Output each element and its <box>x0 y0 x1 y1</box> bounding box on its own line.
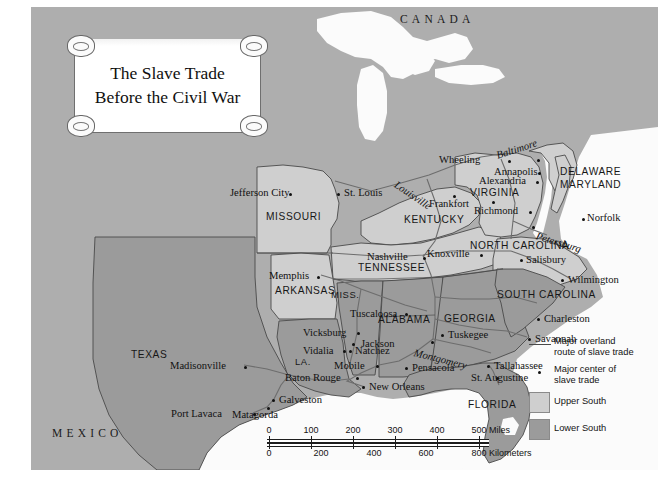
city-label-baton-rouge: Baton Rouge <box>285 373 341 384</box>
state-label-missouri: MISSOURI <box>266 212 321 222</box>
state-label-georgia: GEORGIA <box>444 314 496 324</box>
legend-label-lower-south: Lower South <box>554 423 606 434</box>
legend-label-upper-south: Upper South <box>554 396 606 407</box>
country-label-canada: CANADA <box>400 14 474 26</box>
city-label-jefferson-city: Jefferson City <box>230 188 290 199</box>
scroll-curl-icon <box>240 35 268 57</box>
legend-key-route <box>528 335 554 355</box>
state-label-louisiana: LA. <box>295 357 311 366</box>
city-label-norfolk: Norfolk <box>587 213 621 224</box>
city-label-port-lavaca: Port Lavaca <box>171 409 222 420</box>
scale-mi-0: 0 <box>266 425 271 435</box>
city-label-galveston: Galveston <box>279 395 322 406</box>
city-label-new-orleans: New Orleans <box>369 382 425 393</box>
state-label-texas: TEXAS <box>131 350 167 360</box>
city-label-madisonville: Madisonville <box>170 361 226 372</box>
city-label-tuskegee: Tuskegee <box>448 330 488 341</box>
lake-michigan <box>357 65 387 141</box>
scroll-curl-icon <box>240 115 268 137</box>
state-label-virginia: VIRGINIA <box>470 188 520 198</box>
city-label-wilmington: Wilmington <box>568 275 619 286</box>
scroll-curl-icon <box>67 115 95 137</box>
scale-mi-500: 500 <box>471 425 486 435</box>
city-label-alexandria: Alexandria <box>479 176 526 187</box>
state-label-delaware: DELAWARE <box>560 167 621 177</box>
scale-km-600: 600 <box>418 448 433 458</box>
city-label-knoxville: Knoxville <box>427 249 469 260</box>
scroll-curl-icon <box>67 35 95 57</box>
legend-item-upper-south: Upper South <box>528 391 654 413</box>
upper-south-swatch-icon <box>529 392 550 413</box>
legend-key-center <box>528 363 554 383</box>
scale-mi-100: 100 <box>303 425 318 435</box>
state-label-florida: FLORIDA <box>468 400 516 410</box>
map-canvas: CANADA MEXICO MISSOURI KENTUCKY VIRGINIA… <box>31 7 658 470</box>
map-title-line2: Before the Civil War <box>74 85 261 109</box>
state-label-tennessee: TENNESSEE <box>358 263 425 273</box>
state-label-arkansas: ARKANSAS <box>275 286 335 296</box>
city-label-natchez: Natchez <box>355 346 390 357</box>
scale-mi-200: 200 <box>345 425 360 435</box>
city-label-vidalia: Vidalia <box>303 346 334 357</box>
lower-south-swatch-icon <box>529 419 550 440</box>
city-label-mobile: Mobile <box>334 361 365 372</box>
city-label-frankfort: Frankfort <box>429 199 469 210</box>
legend-key-lower-south <box>528 418 554 438</box>
city-label-tuscaloosa: Tuscaloosa <box>350 309 397 320</box>
scale-bar <box>267 439 489 447</box>
city-label-memphis: Memphis <box>269 271 309 282</box>
legend-label-route-l2: route of slave trade <box>554 347 634 358</box>
scale-km-800: 800 <box>471 448 486 458</box>
scale-kilometers-labels: 0 200 400 600 800 Kilometers <box>267 448 489 460</box>
scale-miles-unit: Miles <box>489 425 510 435</box>
scale-mi-300: 300 <box>387 425 402 435</box>
center-dot-icon <box>538 371 541 374</box>
city-label-wheeling: Wheeling <box>439 155 480 166</box>
scale-km-200: 200 <box>313 448 328 458</box>
legend-item-lower-south: Lower South <box>528 418 654 440</box>
city-label-vicksburg: Vicksburg <box>303 328 346 339</box>
legend-key-upper-south <box>528 391 554 411</box>
scale-km-0: 0 <box>266 448 271 458</box>
city-label-charleston: Charleston <box>544 314 590 325</box>
scale-mi-400: 400 <box>429 425 444 435</box>
city-label-st-augustine: St. Augustine <box>471 373 528 384</box>
map-title-line1: The Slave Trade <box>74 61 261 85</box>
title-scroll: The Slave Trade Before the Civil War <box>65 33 270 139</box>
city-label-pensacola: Pensacola <box>412 363 454 374</box>
state-label-mississippi: MISS. <box>331 290 360 299</box>
lake-erie-ontario <box>435 65 505 85</box>
state-label-kentucky: KENTUCKY <box>404 215 464 225</box>
map-legend: Major overland route of slave trade Majo… <box>528 335 654 445</box>
city-label-st-louis: St. Louis <box>344 188 382 199</box>
legend-item-center: Major center of slave trade <box>528 363 654 386</box>
city-label-matagorda: Matagorda <box>232 410 278 421</box>
map-page: CANADA MEXICO MISSOURI KENTUCKY VIRGINIA… <box>0 0 658 502</box>
legend-label-center-l1: Major center of <box>554 364 616 375</box>
route-line-icon <box>529 344 551 345</box>
state-missouri <box>257 165 339 253</box>
city-label-nashville: Nashville <box>367 252 408 263</box>
city-label-richmond: Richmond <box>474 206 518 217</box>
scale-km-400: 400 <box>366 448 381 458</box>
legend-label-route-l1: Major overland <box>554 336 634 347</box>
map-scale: 0 100 200 300 400 500 Miles <box>267 425 489 460</box>
legend-label-center-l2: slave trade <box>554 375 616 386</box>
map-title: The Slave Trade Before the Civil War <box>74 61 261 109</box>
country-label-mexico: MEXICO <box>52 428 123 440</box>
scale-kilometers-unit: Kilometers <box>489 448 532 458</box>
state-label-south-carolina: SOUTH CAROLINA <box>497 290 596 300</box>
scale-miles-labels: 0 100 200 300 400 500 Miles <box>267 425 489 437</box>
city-label-salisbury: Salisbury <box>526 255 566 266</box>
state-label-maryland: MARYLAND <box>560 180 621 190</box>
legend-item-route: Major overland route of slave trade <box>528 335 654 358</box>
